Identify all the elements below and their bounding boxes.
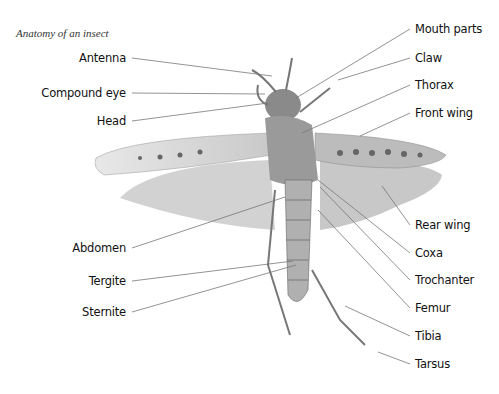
- label-compound-eye: Compound eye: [41, 86, 126, 100]
- label-claw: Claw: [415, 51, 442, 65]
- label-rear-wing: Rear wing: [415, 218, 470, 232]
- label-head: Head: [97, 114, 126, 128]
- label-mouth-parts: Mouth parts: [415, 22, 482, 36]
- label-femur: Femur: [415, 301, 450, 315]
- label-antenna: Antenna: [79, 51, 126, 65]
- label-sternite: Sternite: [82, 305, 126, 319]
- label-tergite: Tergite: [89, 274, 126, 288]
- label-tibia: Tibia: [415, 329, 441, 343]
- label-abdomen: Abdomen: [72, 241, 126, 255]
- label-tarsus: Tarsus: [415, 357, 450, 371]
- label-front-wing: Front wing: [415, 106, 473, 120]
- label-trochanter: Trochanter: [415, 273, 474, 287]
- label-thorax: Thorax: [415, 78, 454, 92]
- label-coxa: Coxa: [415, 246, 443, 260]
